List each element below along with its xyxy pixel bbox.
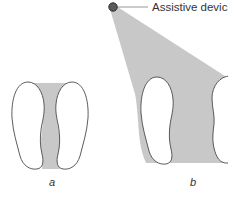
left-foot-a	[12, 82, 44, 169]
right-foot-b	[212, 76, 228, 163]
panel-label-a: a	[49, 175, 55, 189]
device-label: Assistive device	[152, 0, 228, 14]
diagram-canvas	[0, 0, 228, 201]
assistive-device	[109, 3, 148, 11]
panel-a	[12, 82, 88, 169]
panel-b	[110, 6, 228, 164]
right-foot-a	[56, 82, 88, 169]
panel-label-b: b	[190, 175, 196, 189]
device-dot-icon	[109, 3, 117, 11]
